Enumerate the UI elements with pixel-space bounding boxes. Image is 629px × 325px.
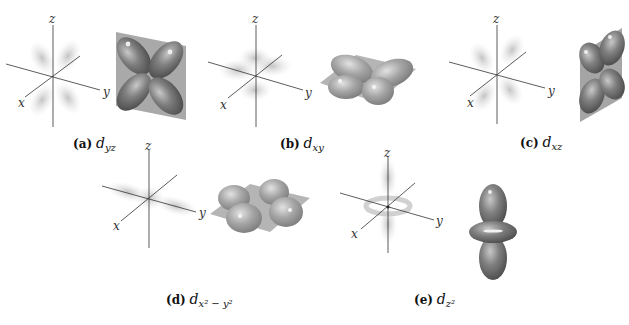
caption-subscript: x² − y² xyxy=(199,298,233,309)
axis-label-z: z xyxy=(493,12,499,26)
panel-dz2: z y x (e) dz² xyxy=(300,160,619,325)
caption-dx2-y2: (d) dx² − y² xyxy=(166,291,233,309)
axis-label-z: z xyxy=(384,146,390,160)
axis-label-y: y xyxy=(436,214,443,228)
caption-subscript: xz xyxy=(551,141,562,152)
caption-dyz: (a) dyz xyxy=(73,135,116,153)
caption-dxy: (b) dxy xyxy=(280,135,324,153)
axis-label-x: x xyxy=(220,98,227,112)
axis-label-x: x xyxy=(467,96,474,110)
axis-label-y: y xyxy=(305,86,312,100)
axis-label-y: y xyxy=(199,206,206,220)
panel-dxz: z y x (c) dxz xyxy=(410,0,619,160)
caption-dz2: (e) dz² xyxy=(414,291,455,309)
caption-tag: (d) xyxy=(166,293,186,307)
caption-tag: (c) xyxy=(520,136,539,150)
panel-dyz: z y x (a) dyz xyxy=(0,0,200,160)
caption-orbital: d xyxy=(304,135,313,151)
axis-label-z: z xyxy=(145,139,151,153)
axis-label-z: z xyxy=(252,12,258,26)
orbital-render-dz2 xyxy=(468,180,528,290)
axis-label-y: y xyxy=(103,85,110,99)
panel-dx2-y2: z y x (d) dx² − y² xyxy=(90,160,310,325)
orbital-render-dxz xyxy=(572,24,629,124)
caption-tag: (b) xyxy=(280,137,300,151)
axis-label-y: y xyxy=(548,84,555,98)
axes-dz2 xyxy=(300,160,619,325)
panel-dxy: z y x (b) dxy xyxy=(200,0,410,160)
caption-orbital: d xyxy=(96,135,105,151)
caption-orbital: d xyxy=(437,291,446,307)
caption-tag: (a) xyxy=(73,137,92,151)
caption-subscript: yz xyxy=(105,142,116,153)
caption-dxz: (c) dxz xyxy=(520,134,562,152)
orbital-render-dyz xyxy=(114,30,194,130)
caption-subscript: xy xyxy=(313,142,324,153)
orbital-render-dxy xyxy=(318,45,418,115)
caption-subscript: z² xyxy=(446,298,455,309)
axis-label-z: z xyxy=(49,12,55,26)
orbital-render-dx2-y2 xyxy=(210,172,310,242)
axis-label-x: x xyxy=(18,96,25,110)
caption-orbital: d xyxy=(190,291,199,307)
axis-label-x: x xyxy=(113,219,120,233)
axis-label-x: x xyxy=(351,227,358,241)
caption-tag: (e) xyxy=(414,293,433,307)
